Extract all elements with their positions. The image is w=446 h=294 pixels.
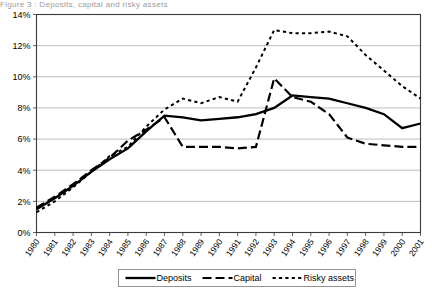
- x-tick-label: 1984: [96, 237, 115, 258]
- x-tick-label: 1986: [132, 237, 151, 258]
- x-tick-label: 1989: [187, 237, 206, 258]
- x-tick-label: 1997: [333, 237, 352, 258]
- gridlines-group: [37, 46, 421, 202]
- x-tick-label: 1982: [59, 237, 78, 258]
- plot-frame: [37, 15, 421, 233]
- legend-label-deposits: Deposits: [157, 273, 193, 283]
- y-axis-tick-labels: 0%2%4%6%8%10%12%14%: [12, 10, 30, 238]
- x-tick-label: 1991: [224, 237, 243, 258]
- y-tick-label: 0%: [17, 228, 30, 238]
- y-tick-label: 12%: [12, 41, 30, 51]
- y-tick-label: 6%: [17, 134, 30, 144]
- series-line-capital: [37, 78, 421, 207]
- chart-container: Figure 3 : Deposits, capital and risky a…: [0, 0, 446, 294]
- x-tick-label: 1998: [352, 237, 371, 258]
- x-tick-label: 1990: [205, 237, 224, 258]
- data-series-group: [37, 30, 421, 212]
- x-tick-label: 1985: [114, 237, 133, 258]
- x-tick-label: 1994: [279, 237, 298, 258]
- line-chart-plot: 0%2%4%6%8%10%12%14% 19801981198219831984…: [0, 0, 446, 294]
- x-tick-label: 1987: [151, 237, 170, 258]
- x-tick-label: 1995: [297, 237, 316, 258]
- legend-label-risky-assets: Risky assets: [304, 273, 355, 283]
- legend-label-capital: Capital: [234, 273, 262, 283]
- x-tick-label: 1988: [169, 237, 188, 258]
- x-tick-label: 1980: [23, 237, 42, 258]
- y-tick-label: 10%: [12, 72, 30, 82]
- x-tick-label: 2001: [407, 237, 426, 258]
- x-tick-label: 1981: [41, 237, 60, 258]
- series-line-deposits: [37, 95, 421, 209]
- x-tick-label: 1992: [242, 237, 261, 258]
- x-tick-label: 2000: [388, 237, 407, 258]
- y-tick-label: 14%: [12, 10, 30, 20]
- x-tick-label: 1996: [315, 237, 334, 258]
- series-line-risky-assets: [37, 30, 421, 212]
- chart-legend: DepositsCapitalRisky assets: [119, 270, 356, 287]
- y-tick-label: 2%: [17, 197, 30, 207]
- y-tick-label: 4%: [17, 166, 30, 176]
- x-tick-label: 1993: [260, 237, 279, 258]
- x-tick-label: 1983: [77, 237, 96, 258]
- x-axis-tick-labels: 1980198119821983198419851986198719881989…: [23, 237, 426, 258]
- y-tick-label: 8%: [17, 103, 30, 113]
- x-tick-label: 1999: [370, 237, 389, 258]
